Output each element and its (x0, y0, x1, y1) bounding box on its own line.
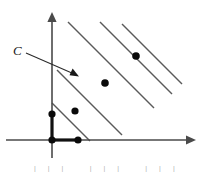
point-on-x-axis (74, 136, 81, 143)
figure-canvas: C (0, 0, 205, 173)
parallel-line-family (52, 22, 182, 141)
point-at-origin (48, 136, 55, 143)
label-c: C (13, 43, 22, 58)
annotation-group: C (13, 43, 79, 77)
leader-arrowhead (70, 69, 80, 77)
vertical-axis-arrowhead (47, 12, 56, 22)
parallel-line-2 (57, 70, 122, 135)
figure-container: C ||| ||| ||| (0, 0, 205, 173)
point-lower-left (71, 107, 78, 114)
leader-line (26, 53, 73, 74)
lattice-points-group (48, 52, 139, 143)
parallel-line-1 (52, 103, 90, 141)
point-middle (101, 79, 109, 87)
axes-group (6, 12, 196, 158)
hull-edges-group (52, 114, 78, 140)
horizontal-axis-arrowhead (186, 135, 196, 144)
point-on-y-axis (48, 110, 55, 117)
point-upper (132, 52, 140, 60)
parallel-line-3 (68, 22, 154, 108)
